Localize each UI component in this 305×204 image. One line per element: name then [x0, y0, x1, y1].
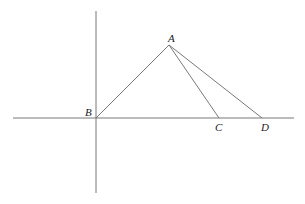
segment-ac [169, 45, 219, 118]
point-label-b: B [85, 106, 92, 118]
point-label-d: D [260, 121, 269, 133]
segment-ab [96, 45, 169, 118]
geometry-diagram: A B C D [0, 0, 305, 204]
segment-ad [169, 45, 262, 118]
point-label-a: A [167, 32, 175, 44]
point-label-c: C [215, 121, 223, 133]
